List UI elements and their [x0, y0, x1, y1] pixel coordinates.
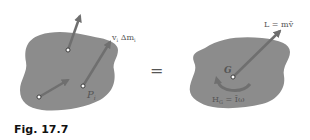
figure: Pi vi Δmi = G L = mv̄ HG = Īω Fig. 17.7: [0, 0, 310, 140]
particle-point-pi: [81, 84, 85, 88]
equals-sign: =: [150, 61, 163, 80]
linear-momentum-label: L = mv̄: [264, 20, 294, 29]
figure-caption: Fig. 17.7: [14, 123, 68, 136]
particle-point-top: [66, 48, 70, 52]
mass-center-point: [231, 75, 235, 79]
momentum-label: vi Δmi: [111, 33, 136, 43]
particle-point-lower: [37, 95, 41, 99]
angular-momentum-label: HG = Īω: [212, 95, 245, 105]
mass-center-label: G: [224, 65, 232, 75]
